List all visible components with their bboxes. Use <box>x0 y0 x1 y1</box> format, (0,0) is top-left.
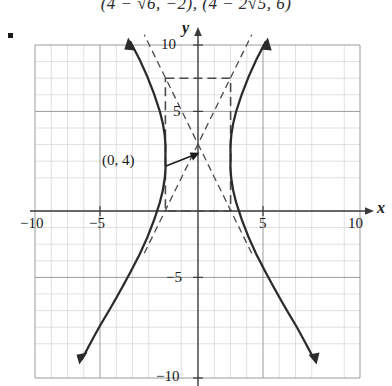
y-tick-label-5: 5 <box>173 103 181 120</box>
x-tick-label-neg5: −5 <box>89 215 105 232</box>
coordinate-plane-svg <box>0 0 392 386</box>
x-tick-label-neg10: −10 <box>20 215 43 232</box>
y-tick-label-neg10: −10 <box>156 368 179 385</box>
x-axis-name: x <box>377 199 385 217</box>
y-tick-label-neg5: −5 <box>166 269 182 286</box>
x-axis-arrowhead <box>365 207 374 215</box>
center-point-label: (0, 4) <box>102 152 135 169</box>
y-axis-arrowhead <box>194 27 202 36</box>
y-tick-label-10: 10 <box>161 36 176 53</box>
y-axis-name: y <box>182 19 189 37</box>
x-tick-label-5: 5 <box>259 215 267 232</box>
x-tick-label-10: 10 <box>348 215 363 232</box>
hyperbola-figure: (4 − √6, −2), (4 − 2√5, 6) <box>0 0 392 386</box>
